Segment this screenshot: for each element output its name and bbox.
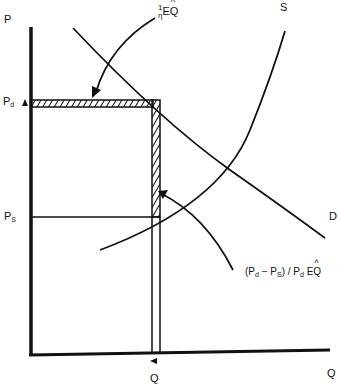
supply-label: S [280, 1, 287, 13]
right-expr: E [304, 266, 313, 277]
pd-hatched-bar [31, 100, 153, 107]
q-marker-icon [150, 358, 157, 364]
q-label: Q [150, 372, 159, 384]
top-expr: E [162, 5, 169, 17]
right-q-hat: Q [313, 266, 321, 277]
ps-sub: S [11, 216, 16, 223]
x-axis-label: Q [327, 367, 336, 379]
right-mid: ) / P [282, 266, 300, 277]
demand-label: D [329, 210, 337, 222]
right-minus: − P [259, 266, 277, 277]
top-annotation: 1 η EQ [158, 4, 178, 20]
pd-label: Pd [3, 95, 14, 108]
quantity-hatched-bar [152, 100, 160, 217]
right-open: (P [245, 266, 255, 277]
pd-marker-icon [22, 99, 28, 106]
x-axis [29, 350, 330, 355]
top-q-hat: Q [170, 5, 179, 17]
right-annotation: (Pd − PS) / Pd EQ [245, 266, 321, 278]
diagram-canvas [0, 0, 338, 389]
ps-label: PS [4, 210, 16, 223]
pd-sub: d [10, 101, 14, 108]
right-annotation-arrow [160, 193, 233, 270]
y-axis-label: P [4, 13, 11, 25]
